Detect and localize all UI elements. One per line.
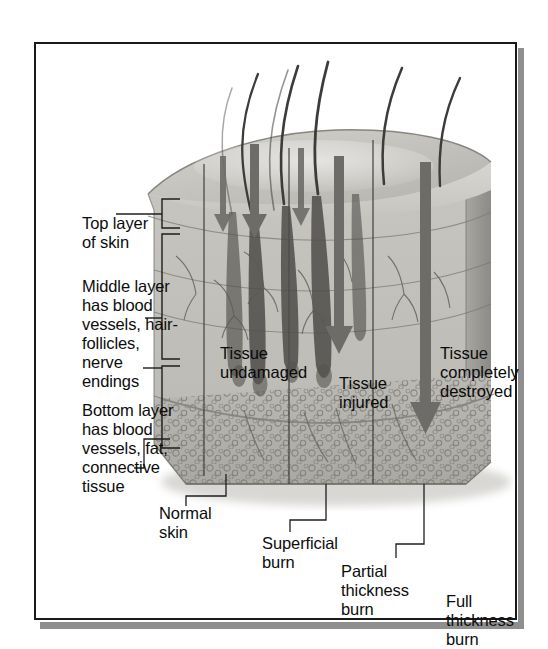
label-normal-skin: Normal skin [159, 504, 212, 542]
label-tissue-undamaged: Tissue undamaged [220, 344, 307, 382]
label-tissue-injured: Tissue injured [339, 374, 389, 412]
label-middle-layer: Middle layer has blood vessels, hair- fo… [82, 277, 178, 391]
label-full-thickness-burn: Full thickness burn [446, 592, 514, 649]
label-tissue-completely-destroyed: Tissue completely destroyed [440, 344, 519, 401]
illustration-frame: Top layer of skin Middle layer has blood… [34, 42, 517, 620]
label-partial-thickness-burn: Partial thickness burn [341, 562, 409, 619]
label-top-layer: Top layer of skin [82, 214, 148, 252]
label-superficial-burn: Superficial burn [262, 534, 338, 572]
label-bottom-layer: Bottom layer has blood vessels, fat, con… [82, 401, 173, 496]
